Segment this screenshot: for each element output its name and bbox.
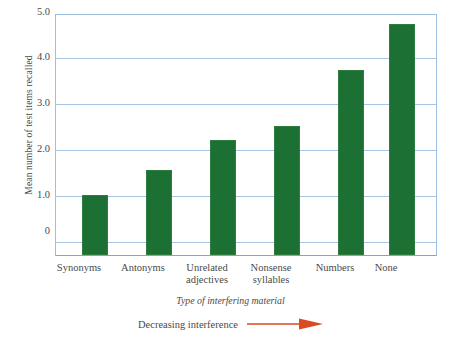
x-tick-label-synonyms: Synonyms bbox=[44, 262, 114, 274]
bar-numbers bbox=[338, 70, 364, 255]
x-axis-title: Type of interfering material bbox=[0, 295, 461, 306]
gridline-3 bbox=[56, 104, 436, 105]
y-tick-label-3: 3.0 bbox=[16, 97, 50, 108]
annotation-label: Decreasing interference bbox=[138, 319, 238, 330]
bar-unrelated-adjectives bbox=[210, 140, 236, 255]
bar-none bbox=[389, 24, 415, 255]
gridline-2 bbox=[56, 150, 436, 151]
gridline-4 bbox=[56, 58, 436, 59]
y-tick-label-5: 5.0 bbox=[16, 6, 50, 17]
y-tick-label-2: 2.0 bbox=[16, 143, 50, 154]
bar-synonyms bbox=[82, 195, 108, 255]
bar-nonsense-syllables bbox=[274, 126, 300, 255]
x-tick-label-nonsense-syllables: Nonsense syllables bbox=[236, 262, 306, 285]
x-tick-label-unrelated-adjectives: Unrelated adjectives bbox=[172, 262, 242, 285]
bar-antonyms bbox=[146, 170, 172, 255]
gridline-1 bbox=[56, 196, 436, 197]
y-tick-label-0: 0 bbox=[16, 225, 50, 236]
gridline-0 bbox=[56, 242, 436, 243]
x-tick-label-antonyms: Antonyms bbox=[108, 262, 178, 274]
y-tick-label-1: 1.0 bbox=[16, 189, 50, 200]
plot-area bbox=[55, 14, 437, 256]
right-arrow-icon bbox=[247, 318, 323, 330]
y-tick-label-4: 4.0 bbox=[16, 51, 50, 62]
bar-chart-figure: Mean number of test items recalled 5.0 4… bbox=[0, 0, 461, 343]
x-tick-label-none: None bbox=[351, 262, 421, 274]
annotation-row: Decreasing interference bbox=[0, 318, 461, 330]
